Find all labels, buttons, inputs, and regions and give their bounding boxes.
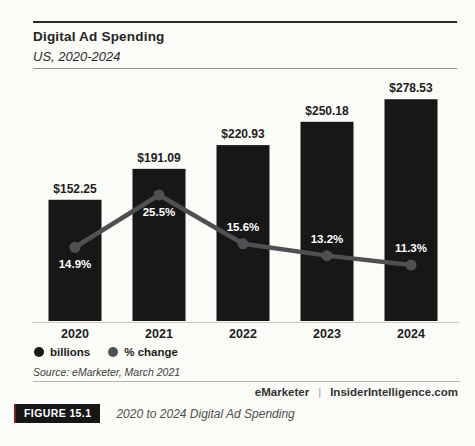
pct-label-2023: 13.2% (311, 233, 344, 245)
figure-page: Digital Ad Spending US, 2020-2024 $152.2… (0, 0, 475, 446)
pct-marker-2023 (322, 250, 333, 261)
pct-marker-2021 (154, 189, 165, 200)
bar-line-chart: $152.25$191.09$220.93$250.18$278.5314.9%… (0, 0, 475, 446)
brand-separator: | (318, 386, 321, 398)
brand-insiderintelligence: InsiderIntelligence.com (330, 386, 458, 398)
pct-label-2021: 25.5% (143, 206, 176, 218)
chart-legend: billions % change (34, 346, 178, 358)
figure-number-badge: FIGURE 15.1 (14, 404, 100, 423)
source-note: Source: eMarketer, March 2021 (33, 366, 180, 378)
x-tick-label-2023: 2023 (313, 327, 341, 341)
footer-divider-rule (33, 381, 460, 382)
pct-label-2022: 15.6% (227, 221, 260, 233)
legend-label-pct-change: % change (124, 346, 178, 358)
pct-label-2024: 11.3% (395, 242, 427, 254)
billions-dot-icon (34, 347, 44, 357)
bar-2023 (301, 122, 354, 321)
pct-marker-2024 (406, 260, 417, 271)
footer-brands: eMarketer | InsiderIntelligence.com (255, 386, 458, 398)
x-tick-label-2024: 2024 (397, 327, 425, 341)
figure-caption-row: FIGURE 15.1 2020 to 2024 Digital Ad Spen… (14, 404, 295, 423)
pct-marker-2022 (238, 238, 249, 249)
figure-caption: 2020 to 2024 Digital Ad Spending (116, 407, 294, 421)
bar-value-label-2023: $250.18 (305, 104, 349, 118)
pct-label-2020: 14.9% (59, 258, 92, 270)
legend-item-pct-change: % change (108, 346, 178, 358)
bar-value-label-2020: $152.25 (53, 182, 97, 196)
pct-change-dot-icon (108, 347, 118, 357)
bar-value-label-2021: $191.09 (137, 151, 181, 165)
x-tick-label-2022: 2022 (229, 327, 257, 341)
bar-value-label-2022: $220.93 (221, 127, 265, 141)
pct-marker-2020 (70, 242, 81, 253)
legend-item-billions: billions (34, 346, 90, 358)
x-tick-label-2020: 2020 (61, 327, 89, 341)
bar-2024 (385, 99, 438, 321)
legend-label-billions: billions (50, 346, 90, 358)
brand-emarketer: eMarketer (255, 386, 309, 398)
bar-value-label-2024: $278.53 (389, 81, 433, 95)
x-tick-label-2021: 2021 (145, 327, 173, 341)
